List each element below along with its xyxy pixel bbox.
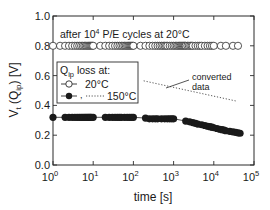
data-point-open — [222, 42, 229, 49]
y-tick-label: 0.4 — [35, 99, 50, 111]
legend-150c-comma: , — [80, 90, 83, 100]
data-point-filled — [130, 114, 137, 121]
y-tick-label: 0.8 — [35, 40, 50, 52]
x-tick-label: 104 — [203, 169, 219, 183]
y-axis-label: Vt (Qip) [V] — [7, 62, 23, 117]
annotation-top: after 104 P/E cycles at 20°C — [60, 28, 190, 40]
data-point-filled — [236, 130, 243, 137]
chart-svg: 100101102103104105 0.00.20.40.60.81.0 af… — [0, 0, 270, 210]
data-point-filled — [90, 114, 97, 121]
data-point-filled — [170, 115, 177, 122]
y-tick-label: 0.6 — [35, 70, 50, 82]
annotation-converted-line2: data — [192, 82, 210, 92]
data-point-open — [49, 42, 56, 49]
x-tick-label: 102 — [122, 169, 138, 183]
legend: Qip loss at: 20°C , 150°C — [57, 62, 138, 103]
x-axis-label: time [s] — [134, 190, 173, 204]
x-tick-label: 103 — [162, 169, 178, 183]
data-point-open — [90, 42, 97, 49]
x-tick-label: 100 — [42, 169, 58, 183]
annotation-converted-line1: converted — [192, 72, 232, 82]
data-point-filled — [49, 114, 56, 121]
data-point-open — [130, 42, 137, 49]
data-point-open — [234, 42, 241, 49]
svg-text:Vt (Qip) [V]: Vt (Qip) [V] — [7, 62, 23, 117]
annotation-leader-line — [166, 80, 189, 88]
legend-20c-label: 20°C — [85, 78, 109, 90]
chart-container: 100101102103104105 0.00.20.40.60.81.0 af… — [0, 0, 270, 210]
converted-data-line — [144, 81, 236, 101]
y-tick-label: 1.0 — [35, 10, 50, 22]
legend-20c-marker — [66, 81, 72, 87]
data-point-open — [210, 42, 217, 49]
x-tick-label: 101 — [82, 169, 98, 183]
legend-150c-marker — [66, 93, 72, 99]
x-tick-label: 105 — [243, 169, 259, 183]
y-tick-label: 0.2 — [35, 129, 50, 141]
y-tick-label: 0.0 — [35, 159, 50, 171]
legend-150c-label: 150°C — [107, 90, 137, 102]
